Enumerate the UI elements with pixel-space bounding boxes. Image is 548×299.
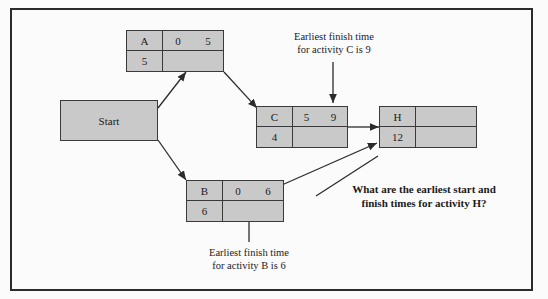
node-h-earliest-finish — [446, 107, 476, 126]
node-h-label: H — [394, 111, 402, 123]
node-a-duration-cell: 5 — [127, 51, 163, 71]
node-b-earliest-finish: 6 — [253, 181, 283, 200]
node-h[interactable]: H 12 — [379, 106, 477, 148]
annotation-h-question: What are the earliest start and finish t… — [316, 183, 532, 210]
node-a-earliest-start: 0 — [163, 31, 193, 50]
annotation-b-line1: Earliest finish time — [187, 247, 311, 260]
diagram-canvas: Start A 0 5 5 C 5 9 4 H — [0, 0, 548, 299]
node-h-duration: 12 — [392, 131, 403, 143]
annotation-h-question-line1: What are the earliest start and — [316, 183, 532, 197]
node-c-earliest-start: 5 — [293, 107, 320, 126]
node-h-duration-cell: 12 — [380, 127, 416, 147]
node-h-earliest-start — [416, 107, 446, 126]
node-b-spare-cell — [223, 201, 283, 221]
node-start[interactable]: Start — [60, 100, 158, 141]
node-b-duration: 6 — [202, 205, 208, 217]
node-c-spare-cell — [293, 127, 347, 147]
node-h-label-cell: H — [380, 107, 416, 127]
annotation-h-question-line2: finish times for activity H? — [316, 197, 532, 211]
node-c-times: 5 9 — [293, 107, 347, 127]
node-b-label: B — [201, 185, 208, 197]
node-a-earliest-finish: 5 — [193, 31, 223, 50]
node-a-times: 0 5 — [163, 31, 223, 51]
node-b[interactable]: B 0 6 6 — [186, 180, 284, 222]
annotation-b: Earliest finish time for activity B is 6 — [187, 247, 311, 272]
annotation-b-line2: for activity B is 6 — [187, 260, 311, 273]
node-a[interactable]: A 0 5 5 — [126, 30, 224, 72]
annotation-c-line2: for activity C is 9 — [272, 44, 396, 57]
node-b-earliest-start: 0 — [223, 181, 253, 200]
node-a-label: A — [141, 35, 149, 47]
node-start-label: Start — [99, 115, 120, 127]
node-c-earliest-finish: 9 — [320, 107, 347, 126]
annotation-c: Earliest finish time for activity C is 9 — [272, 31, 396, 56]
node-b-label-cell: B — [187, 181, 223, 201]
node-a-label-cell: A — [127, 31, 163, 51]
node-h-spare-cell — [416, 127, 476, 147]
node-c-label-cell: C — [257, 107, 293, 127]
node-c-duration: 4 — [272, 131, 278, 143]
annotation-c-line1: Earliest finish time — [272, 31, 396, 44]
node-c[interactable]: C 5 9 4 — [256, 106, 348, 148]
node-h-times — [416, 107, 476, 127]
node-b-times: 0 6 — [223, 181, 283, 201]
node-b-duration-cell: 6 — [187, 201, 223, 221]
node-a-spare-cell — [163, 51, 223, 71]
node-c-label: C — [271, 111, 278, 123]
node-a-duration: 5 — [142, 55, 148, 67]
node-c-duration-cell: 4 — [257, 127, 293, 147]
